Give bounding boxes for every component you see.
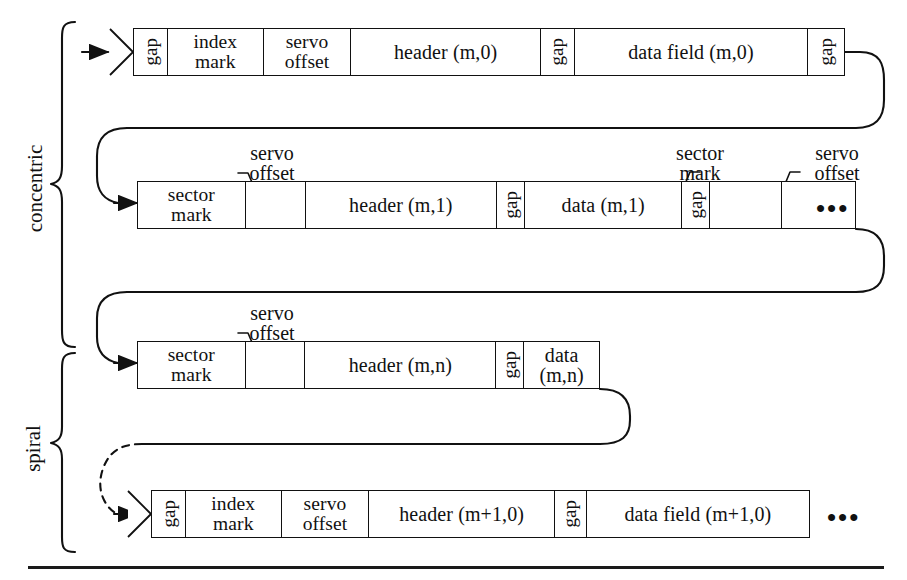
cell-label: index mark bbox=[193, 32, 237, 72]
cell-data[interactable]: data (m,n) bbox=[524, 342, 599, 388]
cell-header[interactable]: header (m,0) bbox=[351, 29, 540, 75]
start-chevron-row-4 bbox=[128, 491, 151, 537]
cell-sector-mark[interactable]: sector mark bbox=[138, 182, 246, 228]
cell-label: gap bbox=[500, 351, 519, 379]
cell-gap[interactable]: gap bbox=[496, 342, 524, 388]
cell-label: servo offset bbox=[303, 494, 348, 534]
cell-label: data (m,n) bbox=[526, 345, 597, 386]
cell-label: gap bbox=[816, 38, 835, 66]
cell-header[interactable]: header (m,1) bbox=[306, 182, 497, 228]
cell-sector-mark[interactable]: sector mark bbox=[138, 342, 246, 388]
cell-label: gap bbox=[501, 191, 520, 219]
side-label-spiral: spiral bbox=[21, 412, 46, 486]
cell-data-field[interactable]: data field (m,0) bbox=[575, 29, 808, 75]
cell-label: gap bbox=[548, 38, 567, 66]
cell-label: data field (m,0) bbox=[628, 42, 753, 62]
cell-label: gap bbox=[686, 191, 705, 219]
annotation-servo-offset: servo offset bbox=[212, 143, 332, 184]
cell-gap[interactable]: gap bbox=[134, 29, 168, 75]
cell-index-mark[interactable]: index mark bbox=[168, 29, 264, 75]
track-row-sector-m1: sector mark servo offset header (m,1) ga… bbox=[137, 181, 856, 229]
cell-label: header (m,n) bbox=[349, 355, 452, 375]
cell-gap[interactable]: gap bbox=[497, 182, 525, 228]
cell-header[interactable]: header (m+1,0) bbox=[369, 491, 554, 537]
track-row-index-m0: gap index mark servo offset header (m,0)… bbox=[133, 28, 845, 76]
cell-servo-offset-blank[interactable]: servo offset bbox=[246, 342, 306, 388]
cell-label: header (m,0) bbox=[394, 42, 497, 62]
cell-servo-offset[interactable]: servo offset bbox=[264, 29, 352, 75]
cell-servo-offset[interactable]: servo offset bbox=[282, 491, 370, 537]
start-chevron-row-1 bbox=[110, 29, 133, 75]
cell-gap[interactable]: gap bbox=[541, 29, 575, 75]
annotation-sector-mark: sector mark bbox=[640, 143, 760, 184]
cell-label: data (m,1) bbox=[562, 195, 645, 215]
cell-header[interactable]: header (m,n) bbox=[305, 342, 496, 388]
brace-spiral bbox=[51, 353, 75, 552]
figure-canvas: gap index mark servo offset header (m,0)… bbox=[0, 0, 907, 580]
cell-gap[interactable]: gap bbox=[555, 491, 587, 537]
ellipsis-row-4: ••• bbox=[827, 505, 860, 531]
cell-data[interactable]: data (m,1) bbox=[525, 182, 683, 228]
cell-data-field[interactable]: data field (m+1,0) bbox=[587, 491, 809, 537]
annotation-servo-offset: servo offset bbox=[782, 143, 892, 184]
annotation-servo-offset: servo offset bbox=[212, 303, 332, 344]
bottom-divider-rule bbox=[28, 566, 884, 569]
cell-label: header (m,1) bbox=[349, 195, 452, 215]
side-label-concentric: concentric bbox=[23, 134, 48, 244]
cell-index-mark[interactable]: index mark bbox=[186, 491, 282, 537]
cell-gap[interactable]: gap bbox=[808, 29, 844, 75]
cell-sector-mark-blank[interactable]: sector mark bbox=[710, 182, 782, 228]
cell-gap[interactable]: gap bbox=[152, 491, 186, 537]
cell-label: sector mark bbox=[168, 185, 215, 225]
cell-label: header (m+1,0) bbox=[399, 504, 524, 524]
cell-servo-offset-blank[interactable]: servo offset bbox=[246, 182, 306, 228]
cell-gap[interactable]: gap bbox=[682, 182, 710, 228]
cell-label: gap bbox=[561, 500, 580, 528]
cell-label: index mark bbox=[211, 494, 255, 534]
cell-label: gap bbox=[141, 38, 160, 66]
track-row-index-m1plus0: gap index mark servo offset header (m+1,… bbox=[151, 490, 810, 538]
cell-label: sector mark bbox=[168, 345, 215, 385]
cell-label: data field (m+1,0) bbox=[624, 504, 771, 524]
ellipsis-row-2: ••• bbox=[816, 196, 849, 222]
track-row-sector-mn: sector mark servo offset header (m,n) ga… bbox=[137, 341, 600, 389]
cell-label: servo offset bbox=[285, 32, 330, 72]
brace-concentric bbox=[51, 22, 75, 347]
cell-label: gap bbox=[159, 500, 178, 528]
